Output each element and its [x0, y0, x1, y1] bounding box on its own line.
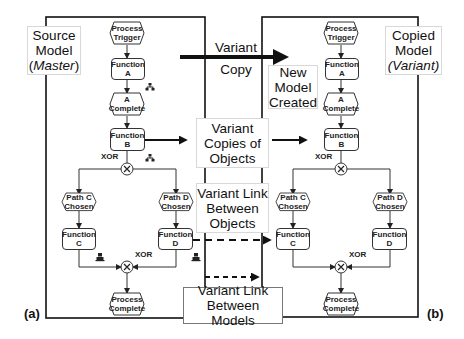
- node-label: Chosen: [375, 202, 404, 211]
- variant-copies-of-objects-label: Variant Copies of Objects: [196, 118, 269, 168]
- process-complete-event: ProcessComplete: [110, 293, 144, 315]
- label-line: Master: [33, 58, 74, 73]
- org-unit-icon: [146, 154, 155, 162]
- node-label: A: [339, 69, 345, 78]
- label-line: (Master): [28, 58, 80, 73]
- function-d-node: FunctionD: [158, 228, 193, 250]
- panel-label-b: (b): [427, 306, 444, 321]
- node-label: A: [125, 69, 131, 78]
- xor-label: XOR: [101, 152, 118, 161]
- node-label: Trigger: [113, 33, 140, 42]
- function-b-node: FunctionB: [324, 128, 359, 151]
- path-c-event: Path CChosen: [62, 193, 96, 211]
- path-d-event: Path DChosen: [159, 193, 193, 211]
- copied-model-label: Copied Model (Variant): [385, 26, 442, 75]
- new-model-created-label: New Model Created: [268, 65, 318, 109]
- node-label: C: [290, 239, 296, 248]
- node-label: Chosen: [64, 202, 93, 211]
- a-complete-event: AComplete: [110, 93, 144, 115]
- xor-split-icon: [335, 163, 347, 175]
- a-complete-event: AComplete: [324, 93, 358, 115]
- node-label: Path C: [280, 193, 305, 202]
- variant-copy-label-top: Variant: [213, 40, 259, 54]
- node-label: Process: [325, 295, 356, 304]
- xor-label: XOR: [135, 250, 152, 259]
- node-label: Function: [62, 230, 96, 239]
- label-line: Variant: [213, 40, 259, 55]
- xor-label: XOR: [349, 250, 366, 259]
- function-d-node: FunctionD: [372, 228, 407, 250]
- label-line: Between: [197, 201, 268, 216]
- label-line: Copied: [386, 28, 441, 43]
- label-line: Source: [28, 28, 80, 43]
- node-label: Trigger: [327, 33, 354, 42]
- node-label: Function: [325, 60, 359, 69]
- xor-join-icon: [121, 261, 133, 273]
- panel-label-a: (a): [24, 306, 40, 321]
- node-label: Path C: [66, 193, 91, 202]
- node-label: C: [76, 239, 82, 248]
- node-label: Complete: [323, 304, 359, 313]
- label-line: Between Models: [184, 298, 282, 328]
- path-d-event: Path DChosen: [373, 193, 407, 211]
- node-label: B: [339, 140, 345, 149]
- node-label: Path D: [163, 193, 188, 202]
- node-label: A: [124, 95, 130, 104]
- node-label: Function: [373, 230, 407, 239]
- org-unit-icon: [146, 83, 155, 91]
- node-label: Path D: [377, 193, 402, 202]
- path-c-event: Path CChosen: [276, 193, 310, 211]
- label-line: Variant: [197, 121, 268, 136]
- process-trigger-event: ProcessTrigger: [324, 22, 358, 44]
- node-label: D: [387, 239, 393, 248]
- function-c-node: FunctionC: [62, 228, 96, 250]
- node-label: Process: [325, 24, 356, 33]
- variant-copy-label-bottom: Copy: [213, 61, 259, 77]
- node-label: D: [173, 239, 179, 248]
- node-label: Complete: [109, 304, 145, 313]
- node-label: Function: [159, 230, 193, 239]
- node-label: Function: [111, 131, 145, 140]
- label-line: Model: [269, 80, 317, 95]
- person-icon: [96, 253, 105, 261]
- node-label: Function: [325, 131, 359, 140]
- label-line: Created: [269, 95, 317, 110]
- label-line: Variant Link: [184, 283, 282, 298]
- node-label: B: [125, 140, 131, 149]
- label-line: Objects: [197, 151, 268, 166]
- label-line: Copy: [213, 62, 259, 77]
- node-label: Chosen: [161, 202, 190, 211]
- label-line: Model: [386, 43, 441, 58]
- label-line: Copies of: [197, 136, 268, 151]
- function-c-node: FunctionC: [276, 228, 310, 250]
- variant-link-between-models-label: Variant Link Between Models: [183, 287, 283, 324]
- xor-join-icon: [335, 261, 347, 273]
- node-label: Process: [111, 24, 142, 33]
- node-label: Function: [111, 60, 145, 69]
- variant-link-between-objects-label: Variant Link Between Objects: [196, 183, 269, 233]
- function-b-node: FunctionB: [110, 128, 145, 151]
- node-label: A: [338, 95, 344, 104]
- node-label: Complete: [109, 104, 145, 113]
- label-line: (Variant): [386, 58, 441, 73]
- label-line: New: [269, 65, 317, 80]
- process-trigger-event: ProcessTrigger: [110, 22, 144, 44]
- person-icon: [192, 253, 201, 261]
- xor-split-icon: [121, 163, 133, 175]
- function-a-node: FunctionA: [111, 58, 145, 80]
- label-line: Model: [28, 43, 80, 58]
- node-label: Function: [276, 230, 310, 239]
- source-model-label: Source Model (Master): [27, 26, 81, 75]
- node-label: Chosen: [278, 202, 307, 211]
- label-line: Variant Link: [197, 186, 268, 201]
- process-complete-event: ProcessComplete: [324, 293, 358, 315]
- function-a-node: FunctionA: [325, 58, 359, 80]
- xor-label: XOR: [315, 152, 332, 161]
- label-line: Objects: [197, 216, 268, 231]
- label-line: Variant: [392, 58, 434, 73]
- node-label: Process: [111, 295, 142, 304]
- node-label: Complete: [323, 104, 359, 113]
